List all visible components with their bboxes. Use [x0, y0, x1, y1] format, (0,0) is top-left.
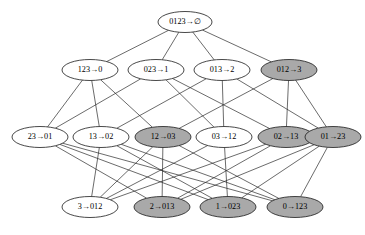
node-label: 1→023: [216, 202, 241, 211]
lattice-node[interactable]: 12→03: [135, 127, 191, 148]
lattice-edge: [63, 143, 273, 201]
lattice-edge: [286, 81, 288, 127]
lattice-edge: [301, 147, 328, 196]
lattice-edge: [296, 80, 327, 127]
lattice-node[interactable]: 2→013: [134, 197, 190, 218]
lattice-node[interactable]: 023→1: [128, 60, 184, 81]
lattice-node[interactable]: 01→23: [305, 127, 361, 148]
lattice-edge: [193, 32, 214, 60]
lattice-edge: [225, 148, 228, 197]
node-label: 12→03: [151, 132, 176, 141]
node-label: 013→2: [210, 65, 235, 74]
lattice-diagram-page: 0123→∅123→0023→1013→2012→323→0113→0212→0…: [0, 0, 365, 235]
lattice-edge: [222, 81, 223, 127]
node-label: 01→23: [321, 132, 346, 141]
lattice-node[interactable]: 1→023: [200, 197, 256, 218]
lattice-node[interactable]: 012→3: [261, 60, 317, 81]
node-label: 23→01: [28, 132, 53, 141]
lattice-node[interactable]: 3→012: [62, 197, 118, 218]
node-label: 0→123: [283, 202, 308, 211]
lattice-edge: [172, 78, 269, 128]
lattice-edge: [92, 147, 100, 196]
lattice-edge: [107, 30, 169, 61]
node-label: 3→012: [78, 202, 103, 211]
node-label: 02→13: [274, 132, 299, 141]
lattice-edge: [166, 80, 214, 127]
node-layer: 0123→∅123→0023→1013→2012→323→0113→0212→0…: [12, 12, 361, 218]
lattice-edge: [237, 79, 318, 128]
lattice-edge: [242, 146, 320, 198]
node-label: 0123→∅: [169, 17, 201, 26]
lattice-edge: [48, 80, 83, 127]
edge-layer: [48, 30, 328, 201]
lattice-edge: [179, 146, 279, 199]
lattice-node[interactable]: 0→123: [267, 197, 323, 218]
lattice-edge: [181, 145, 314, 200]
lattice-edge: [162, 32, 179, 60]
lattice-node[interactable]: 0123→∅: [158, 12, 212, 33]
node-label: 012→3: [277, 65, 302, 74]
node-label: 123→0: [78, 65, 103, 74]
lattice-node[interactable]: 03→12: [196, 127, 252, 148]
lattice-node[interactable]: 13→02: [73, 127, 129, 148]
node-label: 023→1: [144, 65, 169, 74]
lattice-node[interactable]: 123→0: [62, 60, 118, 81]
lattice-edge: [202, 30, 271, 62]
lattice-node[interactable]: 013→2: [194, 60, 250, 81]
lattice-edge: [162, 148, 163, 197]
lattice-node[interactable]: 23→01: [12, 127, 68, 148]
node-label: 13→02: [89, 132, 114, 141]
lattice-edge: [106, 146, 207, 199]
node-label: 2→013: [150, 202, 175, 211]
node-label: 03→12: [212, 132, 237, 141]
lattice-edge: [100, 147, 153, 197]
lattice-diagram-canvas: 0123→∅123→0023→1013→2012→323→0113→0212→0…: [0, 0, 365, 235]
